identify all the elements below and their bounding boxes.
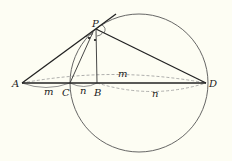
angle-dot-1 [88,37,90,39]
label-C: C [62,87,70,98]
label-m-upper: m [118,68,127,79]
dashed-arc-m-upper [22,75,206,84]
label-n-CB: n [80,85,86,96]
label-m-AC: m [44,86,53,97]
tangent-line-AP [22,14,116,83]
line-PB [96,29,97,83]
geometry-diagram: A C B D P m m n n [0,0,232,161]
label-P: P [91,18,99,29]
label-D: D [208,78,217,89]
label-B: B [93,87,101,98]
label-A: A [11,78,19,89]
angle-dot-2 [94,39,96,41]
label-n-BD: n [152,88,158,99]
